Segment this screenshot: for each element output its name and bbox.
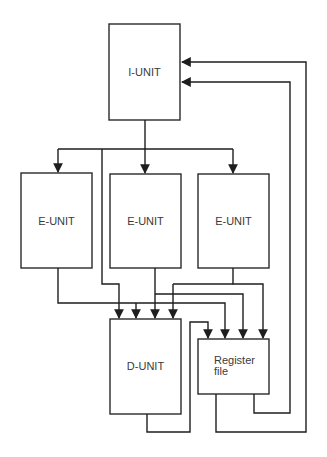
- block-diagram: I-UNIT E-UNIT E-UNIT E-UNIT D-UNIT Regis…: [0, 0, 327, 457]
- i-unit-label: I-UNIT: [128, 66, 161, 78]
- register-file-node: Register file: [198, 339, 269, 394]
- register-file-label-2: file: [214, 365, 228, 377]
- e-unit-1-label: E-UNIT: [38, 215, 75, 227]
- e-unit-1-node: E-UNIT: [21, 173, 92, 268]
- e-unit-2-label: E-UNIT: [127, 215, 164, 227]
- e-unit-3-label: E-UNIT: [215, 215, 252, 227]
- d-unit-label: D-UNIT: [127, 360, 165, 372]
- d-unit-node: D-UNIT: [110, 319, 181, 414]
- i-unit-node: I-UNIT: [109, 24, 180, 120]
- e-unit-3-node: E-UNIT: [198, 174, 269, 268]
- e-unit-2-node: E-UNIT: [110, 174, 181, 268]
